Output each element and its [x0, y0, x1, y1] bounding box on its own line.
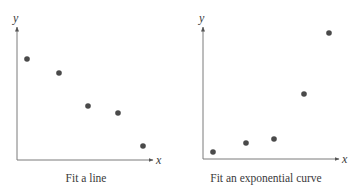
data-point — [271, 136, 277, 142]
y-axis-label: y — [12, 11, 19, 25]
data-point — [301, 91, 307, 97]
y-axis-label: y — [198, 11, 205, 25]
x-axis-label: x — [341, 152, 348, 166]
data-point — [210, 149, 216, 155]
data-point — [243, 140, 249, 146]
fit-line-chart: y x Fit a line — [12, 11, 162, 184]
data-points — [24, 56, 146, 149]
figure: y x Fit a line y x Fit an exponential cu… — [0, 0, 354, 185]
data-point — [85, 103, 91, 109]
chart-caption: Fit an exponential curve — [210, 172, 321, 185]
data-point — [326, 30, 332, 36]
x-axis-label: x — [155, 153, 162, 167]
data-points — [210, 30, 332, 155]
fit-exponential-chart: y x Fit an exponential curve — [198, 11, 348, 185]
chart-caption: Fit a line — [66, 172, 107, 184]
data-point — [24, 56, 30, 62]
data-point — [140, 143, 146, 149]
data-point — [115, 110, 121, 116]
data-point — [56, 70, 62, 76]
